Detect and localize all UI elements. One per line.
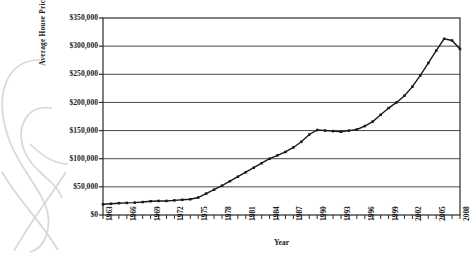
x-axis-title: Year [103, 238, 460, 247]
x-tick-label: 1990 [320, 206, 328, 221]
data-point-marker [221, 184, 224, 187]
data-point-marker [205, 192, 208, 195]
data-point-marker [427, 62, 430, 65]
data-point-marker [276, 154, 279, 157]
data-point-marker [126, 202, 129, 205]
series-line [103, 39, 460, 204]
data-point-marker [435, 49, 438, 52]
x-tick-label: 1978 [225, 206, 233, 221]
data-point-marker [213, 188, 216, 191]
x-tick-label: 1999 [392, 206, 400, 221]
data-point-marker [181, 199, 184, 202]
data-point-marker [268, 157, 271, 160]
data-point-marker [379, 114, 382, 117]
data-point-marker [364, 125, 367, 128]
data-point-marker [260, 162, 263, 165]
data-point-marker [451, 39, 454, 42]
data-point-marker [324, 129, 327, 132]
data-point-marker [292, 146, 295, 149]
data-point-marker [395, 101, 398, 104]
data-point-marker [110, 202, 113, 205]
data-point-marker [237, 175, 240, 178]
data-point-marker [403, 94, 406, 97]
plot-frame [103, 18, 460, 215]
data-point-marker [189, 198, 192, 201]
x-tick-label: 1972 [177, 206, 185, 221]
data-point-marker [332, 130, 335, 133]
x-tick-label: 1966 [130, 206, 138, 221]
data-point-marker [133, 201, 136, 204]
data-point-marker [102, 203, 105, 206]
data-point-marker [118, 202, 121, 205]
data-point-marker [165, 200, 168, 203]
data-point-marker [316, 129, 319, 132]
x-tick-label: 1963 [106, 206, 114, 221]
x-tick-label: 1975 [201, 206, 209, 221]
x-tick-label: 2008 [463, 206, 471, 221]
data-point-marker [340, 130, 343, 133]
x-tick-label: 1996 [368, 206, 376, 221]
data-point-marker [245, 171, 248, 174]
data-point-marker [411, 85, 414, 88]
data-point-marker [252, 166, 255, 169]
data-point-marker [149, 200, 152, 203]
x-tick-label: 1981 [249, 206, 257, 221]
data-point-marker [419, 74, 422, 77]
data-point-marker [300, 141, 303, 144]
data-point-marker [197, 196, 200, 199]
data-point-marker [173, 199, 176, 202]
x-tick-label: 1984 [273, 206, 281, 221]
data-point-marker [229, 180, 232, 183]
data-point-marker [459, 48, 462, 51]
data-point-marker [371, 120, 374, 123]
data-point-marker [356, 128, 359, 131]
data-point-marker [387, 107, 390, 110]
data-point-marker [308, 133, 311, 136]
x-tick-label: 1969 [154, 206, 162, 221]
data-point-marker [141, 201, 144, 204]
x-tick-label: 2005 [439, 206, 447, 221]
x-tick-label: 2002 [415, 206, 423, 221]
x-tick-label: 1987 [296, 206, 304, 221]
data-point-marker [348, 129, 351, 132]
data-point-marker [443, 38, 446, 41]
data-point-marker [284, 151, 287, 154]
x-tick-label: 1993 [344, 206, 352, 221]
data-point-marker [157, 200, 160, 203]
